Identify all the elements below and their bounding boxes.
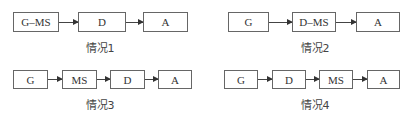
caption-situation-2: 情况2 — [301, 39, 330, 55]
node-a: A — [158, 70, 192, 89]
caption-situation-3: 情况3 — [86, 96, 115, 112]
arrow-right-icon — [145, 79, 158, 80]
arrow-right-icon — [353, 79, 367, 80]
caption-situation-1: 情况1 — [86, 39, 115, 55]
node-d: D — [272, 70, 306, 89]
node-a: A — [356, 12, 400, 32]
arrow-right-icon — [258, 79, 272, 80]
arrow-right-icon — [97, 79, 110, 80]
arrow-right-icon — [269, 22, 292, 23]
arrow-right-icon — [306, 79, 319, 80]
arrow-right-icon — [48, 79, 62, 80]
node-g: G — [228, 12, 269, 32]
node-a: A — [143, 12, 188, 32]
node-a: A — [367, 70, 400, 89]
node-g: G — [13, 70, 48, 89]
node-d-ms: D–MS — [292, 12, 336, 32]
arrow-right-icon — [126, 22, 143, 23]
node-ms: MS — [62, 70, 97, 89]
node-d: D — [110, 70, 145, 89]
arrow-right-icon — [59, 22, 78, 23]
node-g-ms: G–MS — [13, 12, 59, 32]
node-d: D — [78, 12, 126, 32]
arrow-right-icon — [336, 22, 356, 23]
caption-situation-4: 情况4 — [301, 96, 330, 112]
node-ms: MS — [319, 70, 353, 89]
node-g: G — [224, 70, 258, 89]
